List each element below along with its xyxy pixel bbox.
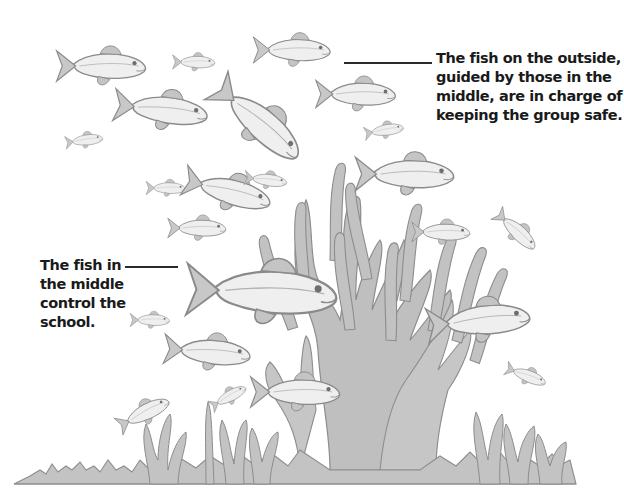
annotation-line: The fish on the outside, <box>436 49 622 68</box>
annotation-line: guided by those in the <box>436 68 622 87</box>
leader-line-middle <box>125 266 178 268</box>
fish-icon <box>64 129 103 150</box>
fish-icon <box>173 52 215 70</box>
fish-icon <box>489 204 542 255</box>
annotation-middle-fish: The fish in the middle control the schoo… <box>40 256 126 332</box>
fish-icon <box>57 46 146 85</box>
leader-line-outside <box>344 62 432 64</box>
fish-icon <box>355 152 453 195</box>
fish-icon <box>503 359 549 391</box>
annotation-outside-fish: The fish on the outside, guided by those… <box>436 49 622 125</box>
annotation-line: the middle <box>40 275 126 294</box>
fish-icon <box>412 219 470 244</box>
annotation-line: school. <box>40 313 126 332</box>
fish-icon <box>207 380 250 415</box>
annotation-line: control the <box>40 294 126 313</box>
fish-icon <box>180 161 276 220</box>
fish-icon <box>168 215 226 240</box>
fish-icon <box>112 84 209 135</box>
fish-icon <box>316 76 396 111</box>
fish-icon <box>202 67 315 172</box>
annotation-line: middle, are in charge of <box>436 87 622 106</box>
annotation-line: The fish in <box>40 256 126 275</box>
fish-icon <box>253 33 330 67</box>
fish-icon <box>363 118 405 142</box>
annotation-line: keeping the group safe. <box>436 106 622 125</box>
fish-icon <box>163 329 251 373</box>
fish-icon <box>146 179 185 196</box>
fish-icon <box>130 311 169 328</box>
